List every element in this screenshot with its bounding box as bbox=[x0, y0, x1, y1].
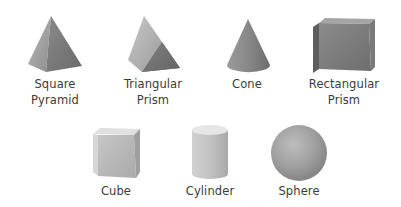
cone-shape bbox=[224, 17, 274, 75]
rectangular-prism-shape bbox=[311, 17, 377, 75]
cube-shape bbox=[90, 126, 144, 180]
rectangular-prism-label: Rectangular Prism bbox=[309, 76, 379, 108]
cylinder-shape bbox=[189, 124, 231, 182]
square-pyramid-label: Square Pyramid bbox=[31, 76, 79, 108]
cylinder-label: Cylinder bbox=[186, 183, 234, 199]
sphere-label: Sphere bbox=[278, 183, 319, 199]
triangular-prism-label: Triangular Prism bbox=[124, 76, 182, 108]
sphere-shape bbox=[268, 123, 330, 183]
triangular-prism-shape bbox=[126, 14, 182, 74]
square-pyramid-shape bbox=[26, 14, 84, 74]
cube-label: Cube bbox=[101, 183, 131, 199]
cone-label: Cone bbox=[232, 76, 262, 92]
